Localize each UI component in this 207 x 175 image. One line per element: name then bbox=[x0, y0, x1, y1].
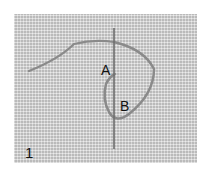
label-point-a: A bbox=[101, 63, 110, 77]
embroidery-drawing bbox=[14, 14, 197, 163]
label-point-b: B bbox=[120, 99, 129, 113]
fabric-photo: A B 1 bbox=[14, 14, 197, 163]
step-number: 1 bbox=[25, 145, 33, 160]
